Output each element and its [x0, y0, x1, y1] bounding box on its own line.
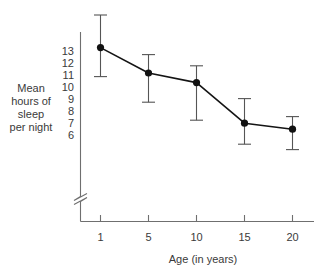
y-axis-break-icon [74, 194, 87, 205]
y-axis-title: Mean hours of sleep per night [10, 82, 53, 133]
chart-container: 13 12 11 10 9 8 7 6 1 5 10 15 20 [0, 0, 322, 272]
y-tick-label: 13 [62, 45, 74, 57]
x-axis-title: Age (in years) [169, 253, 237, 265]
y-axis-title-line: hours of [11, 95, 52, 107]
data-point-marker [193, 79, 200, 86]
error-bar [142, 55, 155, 103]
x-tick-label: 1 [97, 231, 103, 243]
y-tick-labels: 13 12 11 10 9 8 7 6 [62, 45, 74, 141]
y-axis-title-line: per night [10, 121, 53, 133]
y-tick-label: 11 [63, 69, 74, 81]
y-tick-label: 8 [68, 105, 74, 117]
x-tick-label: 20 [286, 231, 298, 243]
error-bar [190, 66, 203, 120]
data-point-marker [145, 69, 152, 76]
x-tick-marks [101, 215, 293, 222]
x-tick-labels: 1 5 10 15 20 [97, 231, 298, 243]
y-axis-title-line: Mean [17, 82, 45, 94]
y-tick-label: 9 [68, 93, 74, 105]
x-tick-label: 15 [238, 231, 250, 243]
sleep-vs-age-line-chart: 13 12 11 10 9 8 7 6 1 5 10 15 20 [0, 0, 322, 272]
data-point-marker [97, 44, 104, 51]
y-tick-label: 7 [68, 117, 74, 129]
y-axis-title-line: sleep [18, 108, 44, 120]
y-tick-label: 6 [68, 129, 74, 141]
y-tick-label: 10 [62, 81, 74, 93]
x-tick-label: 5 [145, 231, 151, 243]
y-tick-label: 12 [62, 57, 74, 69]
error-bar [286, 117, 299, 150]
data-point-marker [289, 126, 296, 133]
data-point-marker [241, 120, 248, 127]
x-tick-label: 10 [190, 231, 202, 243]
